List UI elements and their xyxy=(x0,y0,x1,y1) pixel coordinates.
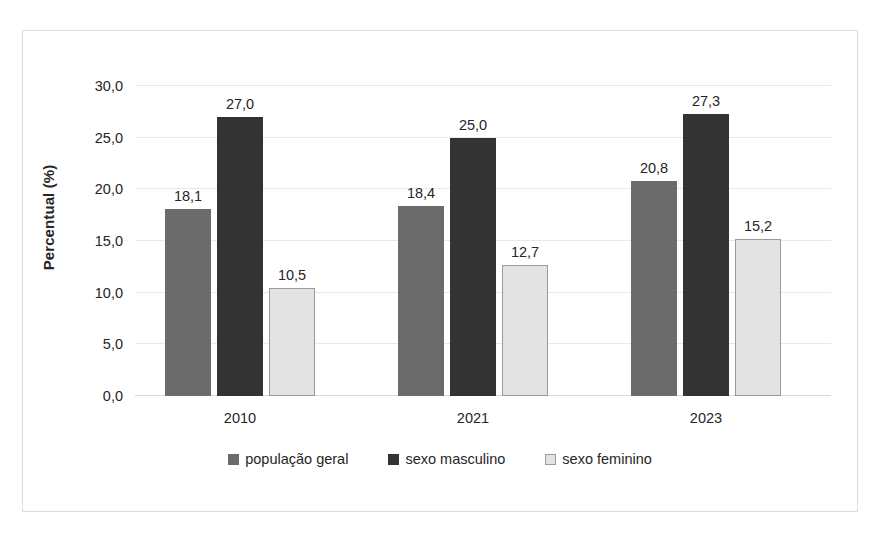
legend-item[interactable]: sexo feminino xyxy=(545,451,651,467)
legend-swatch-icon xyxy=(228,454,239,465)
legend-label: população geral xyxy=(245,451,348,467)
y-axis-tick-label: 30,0 xyxy=(95,78,123,94)
bar-value-label: 18,4 xyxy=(407,185,435,201)
bar[interactable] xyxy=(398,206,444,396)
bar-value-label: 12,7 xyxy=(511,244,539,260)
bar-wrap: 27,3 xyxy=(683,86,729,396)
bar-group: 18,127,010,52010 xyxy=(165,86,315,396)
legend-swatch-icon xyxy=(545,454,556,465)
bar-value-label: 18,1 xyxy=(174,188,202,204)
bar-wrap: 18,4 xyxy=(398,86,444,396)
legend-item[interactable]: sexo masculino xyxy=(388,451,505,467)
y-axis-title: Percentual (%) xyxy=(40,88,57,348)
bar[interactable] xyxy=(269,288,315,397)
bar-wrap: 20,8 xyxy=(631,86,677,396)
legend-swatch-icon xyxy=(388,454,399,465)
y-axis-tick-label: 15,0 xyxy=(95,233,123,249)
x-axis-tick-label: 2023 xyxy=(690,410,722,426)
bar[interactable] xyxy=(631,181,677,396)
bar[interactable] xyxy=(683,114,729,396)
chart-legend: população geralsexo masculinosexo femini… xyxy=(23,451,857,467)
bar-wrap: 27,0 xyxy=(217,86,263,396)
legend-label: sexo masculino xyxy=(405,451,505,467)
bar-group: 18,425,012,72021 xyxy=(398,86,548,396)
y-axis-tick-label: 25,0 xyxy=(95,130,123,146)
bar[interactable] xyxy=(735,239,781,396)
bar-wrap: 18,1 xyxy=(165,86,211,396)
bar-group: 20,827,315,22023 xyxy=(631,86,781,396)
bar[interactable] xyxy=(450,138,496,396)
bar-wrap: 15,2 xyxy=(735,86,781,396)
plot-area: 0,05,010,015,020,025,030,0 18,127,010,52… xyxy=(135,86,831,396)
y-axis-tick-label: 0,0 xyxy=(103,388,123,404)
y-axis-tick-label: 20,0 xyxy=(95,181,123,197)
bar-value-label: 15,2 xyxy=(744,218,772,234)
bar-value-label: 27,3 xyxy=(692,93,720,109)
y-axis-tick-label: 5,0 xyxy=(103,336,123,352)
bar-value-label: 27,0 xyxy=(226,96,254,112)
bar-wrap: 25,0 xyxy=(450,86,496,396)
bar-value-label: 25,0 xyxy=(459,117,487,133)
y-axis-tick-label: 10,0 xyxy=(95,285,123,301)
bar-wrap: 12,7 xyxy=(502,86,548,396)
x-axis-tick-label: 2010 xyxy=(224,410,256,426)
bar[interactable] xyxy=(217,117,263,396)
bar-value-label: 10,5 xyxy=(278,267,306,283)
bar-wrap: 10,5 xyxy=(269,86,315,396)
bar-value-label: 20,8 xyxy=(640,160,668,176)
legend-label: sexo feminino xyxy=(562,451,651,467)
x-axis-tick-label: 2021 xyxy=(457,410,489,426)
chart-frame: Percentual (%) 0,05,010,015,020,025,030,… xyxy=(22,30,858,512)
bar[interactable] xyxy=(165,209,211,396)
bar-groups: 18,127,010,5201018,425,012,7202120,827,3… xyxy=(135,86,831,396)
legend-item[interactable]: população geral xyxy=(228,451,348,467)
bar[interactable] xyxy=(502,265,548,396)
